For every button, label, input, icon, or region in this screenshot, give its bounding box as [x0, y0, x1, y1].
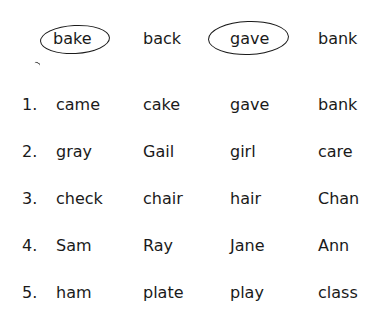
example-word-2: back	[143, 27, 181, 51]
example-word-4: bank	[318, 27, 357, 51]
word-option[interactable]: gave	[230, 93, 269, 117]
word-option[interactable]: Ray	[143, 234, 173, 258]
word-option[interactable]: cake	[143, 93, 180, 117]
item-row-2: 2. gray Gail girl care	[0, 140, 390, 164]
item-row-5: 5. ham plate play class	[0, 281, 390, 305]
word-option[interactable]: class	[318, 281, 358, 305]
word-option[interactable]: gray	[56, 140, 92, 164]
word-option[interactable]: Ann	[318, 234, 349, 258]
word-option[interactable]: hair	[230, 187, 261, 211]
word-option[interactable]: Sam	[56, 234, 92, 258]
word-option[interactable]: check	[56, 187, 103, 211]
pencil-mark	[33, 61, 41, 68]
item-number: 4.	[22, 234, 37, 258]
word-option[interactable]: Jane	[230, 234, 265, 258]
word-option[interactable]: play	[230, 281, 264, 305]
word-option[interactable]: care	[318, 140, 353, 164]
item-number: 1.	[22, 93, 37, 117]
item-row-3: 3. check chair hair Chan	[0, 187, 390, 211]
item-row-4: 4. Sam Ray Jane Ann	[0, 234, 390, 258]
word-option[interactable]: plate	[143, 281, 184, 305]
word-option[interactable]: chair	[143, 187, 183, 211]
word-option[interactable]: came	[56, 93, 100, 117]
item-number: 3.	[22, 187, 37, 211]
word-option[interactable]: girl	[230, 140, 256, 164]
item-number: 5.	[22, 281, 37, 305]
word-option[interactable]: bank	[318, 93, 357, 117]
word-option[interactable]: Chan	[318, 187, 359, 211]
item-row-1: 1. came cake gave bank	[0, 93, 390, 117]
word-option[interactable]: ham	[56, 281, 92, 305]
item-number: 2.	[22, 140, 37, 164]
word-option[interactable]: Gail	[143, 140, 174, 164]
